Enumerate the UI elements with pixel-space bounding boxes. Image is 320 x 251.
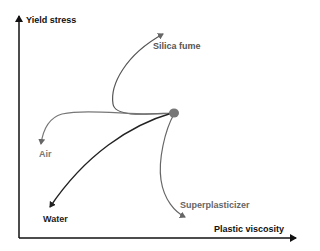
y-axis-label: Yield stress — [26, 16, 76, 25]
air-label: Air — [39, 150, 52, 159]
superplasticizer-label: Superplasticizer — [180, 201, 250, 210]
reference-mix-node — [169, 109, 179, 118]
water-label: Water — [43, 215, 68, 224]
water-arrow — [50, 113, 172, 207]
air-arrow — [41, 112, 172, 144]
silica-fume-label: Silica fume — [153, 42, 201, 51]
x-axis-label: Plastic viscosity — [214, 225, 284, 234]
